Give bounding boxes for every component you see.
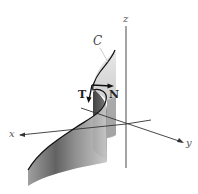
- y-axis-back: [126, 120, 151, 124]
- y-axis-label: y: [186, 138, 192, 148]
- vector-label-T: T: [78, 89, 86, 100]
- space-curve-diagram: [0, 0, 198, 194]
- vector-label-N: N: [109, 89, 119, 100]
- x-axis-label: x: [9, 129, 15, 139]
- tangent-vector-T: [86, 85, 92, 103]
- z-axis-label: z: [123, 14, 128, 24]
- cylinder-surface: [28, 50, 116, 186]
- curve-label-C: C: [93, 35, 102, 47]
- diagram-figure: z x y C T N: [0, 0, 198, 194]
